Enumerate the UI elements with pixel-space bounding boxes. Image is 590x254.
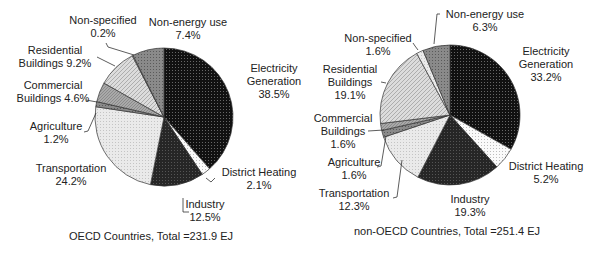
svg-text:12.3%: 12.3% [338, 200, 369, 212]
svg-text:1.6%: 1.6% [330, 138, 355, 150]
svg-text:19.3%: 19.3% [454, 206, 485, 218]
oecd-title: OECD Countries, Total =231.9 EJ [69, 230, 233, 242]
label-non-specified: Non-specified [69, 14, 136, 26]
label-commercial: Commercial [314, 112, 373, 124]
svg-text:19.1%: 19.1% [334, 89, 365, 101]
label-transportation: Transportation [36, 162, 107, 174]
svg-text:12.5%: 12.5% [189, 211, 220, 223]
label-industry: Industry [450, 193, 490, 205]
label-agriculture: Agriculture [328, 156, 381, 168]
svg-text:6.3%: 6.3% [472, 21, 497, 33]
svg-text:1.2%: 1.2% [43, 133, 68, 145]
non-oecd-title: non-OECD Countries, Total =251.4 EJ [354, 225, 540, 237]
svg-text:38.5%: 38.5% [258, 88, 289, 100]
oecd-pie [95, 48, 233, 186]
svg-text:Buildings: Buildings [321, 125, 366, 137]
pie-charts-figure: Electricity Generation 38.5% District He… [0, 0, 590, 254]
label-electricity: Electricity [250, 62, 298, 74]
label-district-heating: District Heating [222, 166, 297, 178]
svg-text:7.4%: 7.4% [175, 29, 200, 41]
svg-text:5.2%: 5.2% [533, 173, 558, 185]
svg-text:24.2%: 24.2% [55, 175, 86, 187]
svg-text:2.1%: 2.1% [246, 179, 271, 191]
svg-text:Generation: Generation [519, 58, 573, 70]
label-district-heating: District Heating [509, 160, 584, 172]
svg-text:Buildings 4.6%: Buildings 4.6% [17, 92, 90, 104]
label-electricity: Electricity [522, 45, 570, 57]
svg-text:1.6%: 1.6% [365, 45, 390, 57]
svg-text:Buildings 9.2%: Buildings 9.2% [19, 57, 92, 69]
label-residential: Residential [28, 44, 82, 56]
svg-text:33.2%: 33.2% [530, 71, 561, 83]
svg-text:0.2%: 0.2% [90, 27, 115, 39]
label-transportation: Transportation [319, 187, 390, 199]
label-agriculture: Agriculture [30, 120, 83, 132]
label-industry: Industry [185, 198, 225, 210]
label-non-energy-use: Non-energy use [446, 8, 524, 20]
svg-text:Generation: Generation [247, 75, 301, 87]
svg-text:Buildings: Buildings [328, 76, 373, 88]
label-non-energy-use: Non-energy use [149, 16, 227, 28]
svg-text:1.6%: 1.6% [341, 169, 366, 181]
label-residential: Residential [323, 63, 377, 75]
label-non-specified: Non-specified [344, 32, 411, 44]
label-commercial: Commercial [24, 79, 83, 91]
non-oecd-pie [380, 45, 520, 185]
